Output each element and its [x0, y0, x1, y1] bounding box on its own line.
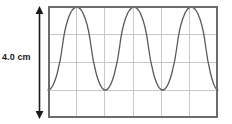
measurement-label: 4.0 cm — [2, 52, 36, 63]
